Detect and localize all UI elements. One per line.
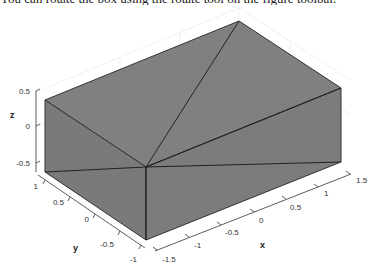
x-tick-0: 0 (259, 216, 264, 225)
x-tick-neg1.5: -1.5 (162, 255, 176, 264)
z-tick-neg0.5: -0.5 (16, 159, 30, 168)
y-tick-0.5: 0.5 (53, 198, 65, 207)
z-tick-0: 0 (26, 122, 31, 131)
x-tick-1.5: 1.5 (356, 176, 368, 185)
x-tick-0.5: 0.5 (290, 203, 302, 212)
y-tick-neg0.5: -0.5 (100, 240, 114, 249)
z-axis-label: z (10, 110, 15, 120)
y-axis-label: y (73, 243, 78, 253)
plot-3d: 0.5 0 -0.5 z 1 0.5 0 -0.5 -1 y -1.5 -1 -… (0, 0, 375, 274)
x-tick-1: 1 (324, 189, 329, 198)
y-tick-0: 0 (85, 215, 90, 224)
z-tick-0.5: 0.5 (19, 87, 31, 96)
z-axis (36, 89, 40, 172)
x-tick-neg1: -1 (194, 241, 202, 250)
y-tick-1: 1 (34, 182, 39, 191)
x-axis-label: x (260, 240, 265, 250)
x-tick-neg0.5: -0.5 (225, 228, 239, 237)
y-tick-neg1: -1 (130, 255, 138, 264)
